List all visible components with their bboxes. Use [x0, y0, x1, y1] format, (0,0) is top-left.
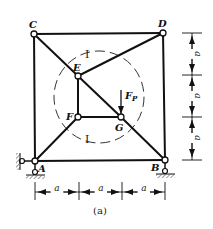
node-label-B: B [150, 162, 159, 173]
dim-v-3: a [193, 135, 203, 140]
member-DB [163, 33, 165, 160]
dim-h-1: a [54, 183, 59, 193]
member-AB [35, 160, 165, 161]
node-label-G: G [115, 122, 124, 133]
member-CD [34, 33, 163, 34]
node-label-A: A [37, 163, 46, 174]
dim-v-1: a [193, 51, 203, 56]
node-label-E: E [72, 62, 81, 73]
dim-h-3: a [141, 183, 146, 193]
section-label-bottom: I [85, 133, 89, 146]
joint-B [162, 157, 168, 163]
member-GB [121, 117, 165, 160]
load-label: FP [124, 90, 138, 103]
joint-C [31, 31, 37, 37]
member-CA [34, 34, 35, 161]
dim-v-2: a [193, 93, 203, 98]
node-label-F: F [65, 111, 74, 122]
truss-diagram: FP C D E F G A B I I a a a [0, 0, 213, 229]
joint-G [118, 114, 124, 120]
member-CE [34, 34, 78, 76]
joint-F [75, 114, 81, 120]
dim-h-2: a [98, 183, 103, 193]
member-FA [35, 117, 78, 161]
member-EG [78, 76, 121, 117]
member-ED [78, 33, 163, 76]
section-label-top: I [85, 48, 89, 61]
joint-D [160, 30, 166, 36]
node-label-C: C [29, 19, 37, 30]
figure-caption: (a) [93, 205, 107, 216]
joint-E [75, 73, 81, 79]
node-label-D: D [157, 18, 167, 29]
